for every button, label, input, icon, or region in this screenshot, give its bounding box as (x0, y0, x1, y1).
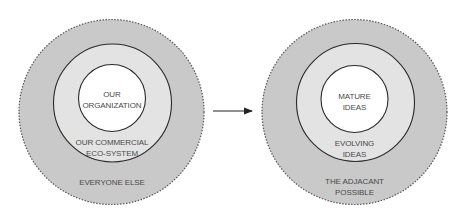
right-middle-label-line1: EVOLVING (335, 139, 375, 148)
right-outer-label-line1: THE ADJACANT (325, 177, 384, 186)
left-diagram: OUR ORGANIZATION OUR COMMERCIAL ECO-SYST… (19, 20, 204, 205)
right-inner-label-line1: MATURE (338, 92, 371, 101)
left-outer-label: EVERYONE ELSE (79, 178, 145, 187)
left-middle-label-line2: ECO-SYSTEM (86, 149, 138, 158)
concentric-diagrams: OUR ORGANIZATION OUR COMMERCIAL ECO-SYST… (0, 0, 465, 221)
left-inner-label-line1: OUR (103, 90, 121, 99)
left-inner-label-line2: ORGANIZATION (82, 101, 141, 110)
left-middle-label-line1: OUR COMMERCIAL (76, 138, 149, 147)
right-diagram: MATURE IDEAS EVOLVING IDEAS THE ADJACANT… (262, 20, 447, 205)
right-middle-label-line2: IDEAS (343, 150, 367, 159)
right-inner-label-line2: IDEAS (343, 103, 367, 112)
right-outer-label-line2: POSSIBLE (335, 188, 374, 197)
